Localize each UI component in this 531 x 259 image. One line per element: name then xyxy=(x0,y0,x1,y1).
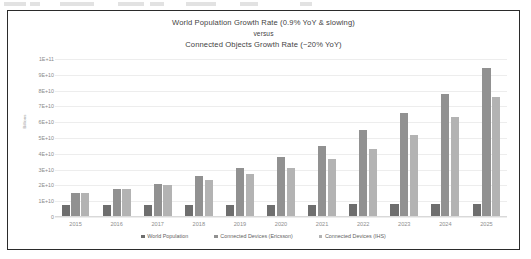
bar-group xyxy=(267,59,295,217)
chart-container: World Population Growth Rate (0.9% YoY &… xyxy=(7,10,520,250)
y-axis-tick-label: 7E+10 xyxy=(16,103,54,109)
x-axis-tick-label: 2022 xyxy=(343,220,384,228)
legend-label: Connected Devices (IHS) xyxy=(325,233,386,240)
bar[interactable] xyxy=(482,68,490,217)
bar[interactable] xyxy=(154,184,162,217)
y-axis-tick-labels: 1E+119E+108E+107E+106E+105E+104E+103E+10… xyxy=(10,59,54,217)
chart-title-line-1: World Population Growth Rate (0.9% YoY &… xyxy=(8,17,519,28)
y-axis-tick-label: 3E+10 xyxy=(16,167,54,173)
legend-swatch-icon xyxy=(141,235,145,239)
bar[interactable] xyxy=(246,174,254,217)
bar[interactable] xyxy=(277,157,285,217)
bar-group xyxy=(390,59,418,217)
x-axis-tick-label: 2018 xyxy=(178,220,219,228)
bar-group xyxy=(144,59,172,217)
bar-group xyxy=(349,59,377,217)
y-axis-tick-label: 4E+10 xyxy=(16,151,54,157)
y-axis-tick-label: 9E+10 xyxy=(16,72,54,78)
legend-label: Connected Devices (Ericsson) xyxy=(220,233,293,240)
legend-item[interactable]: Connected Devices (IHS) xyxy=(319,233,386,240)
legend-label: World Population xyxy=(147,233,188,240)
y-axis-tick-label: 6E+10 xyxy=(16,119,54,125)
bar-group xyxy=(62,59,90,217)
bar[interactable] xyxy=(205,180,213,217)
x-axis-tick-label: 2021 xyxy=(302,220,343,228)
y-axis-tick-label: 0 xyxy=(16,214,54,220)
x-axis-tick-label: 2025 xyxy=(466,220,507,228)
gridline xyxy=(55,217,507,218)
bar[interactable] xyxy=(328,159,336,217)
bar[interactable] xyxy=(369,149,377,217)
x-axis-tick-label: 2015 xyxy=(55,220,96,228)
bar[interactable] xyxy=(359,130,367,217)
bar[interactable] xyxy=(81,193,89,217)
bar-group xyxy=(431,59,459,217)
chart-title-line-2: versus xyxy=(8,28,519,39)
y-axis-tick-label: 2E+10 xyxy=(16,182,54,188)
chart-legend: World PopulationConnected Devices (Erics… xyxy=(8,233,519,240)
bar-group xyxy=(226,59,254,217)
bar[interactable] xyxy=(410,135,418,217)
x-axis-line xyxy=(55,216,507,217)
bar[interactable] xyxy=(195,176,203,217)
plot-area xyxy=(55,59,507,217)
bar[interactable] xyxy=(400,113,408,217)
y-axis-tick-label: 5E+10 xyxy=(16,135,54,141)
x-axis-tick-label: 2019 xyxy=(219,220,260,228)
y-axis-tick-label: 1E+11 xyxy=(16,56,54,62)
x-axis-tick-label: 2024 xyxy=(425,220,466,228)
chart-title: World Population Growth Rate (0.9% YoY &… xyxy=(8,17,519,50)
bar[interactable] xyxy=(163,185,171,217)
bar[interactable] xyxy=(318,146,326,217)
x-axis-tick-label: 2020 xyxy=(260,220,301,228)
bar-group xyxy=(308,59,336,217)
legend-swatch-icon xyxy=(214,235,218,239)
y-axis-tick-label: 1E+10 xyxy=(16,198,54,204)
bar-group xyxy=(103,59,131,217)
bar-group xyxy=(473,59,501,217)
bar[interactable] xyxy=(492,97,500,217)
x-axis-tick-labels: 2015201620172018201920202021202220232024… xyxy=(55,220,507,232)
bar[interactable] xyxy=(122,189,130,217)
bar-group xyxy=(185,59,213,217)
bar[interactable] xyxy=(71,193,79,217)
legend-swatch-icon xyxy=(319,235,323,239)
bar[interactable] xyxy=(441,94,449,217)
x-axis-tick-label: 2016 xyxy=(96,220,137,228)
legend-item[interactable]: World Population xyxy=(141,233,188,240)
x-axis-tick-label: 2023 xyxy=(384,220,425,228)
chart-title-line-3: Connected Objects Growth Rate (~20% YoY) xyxy=(8,39,519,50)
scan-artifact-strip xyxy=(0,0,531,10)
legend-item[interactable]: Connected Devices (Ericsson) xyxy=(214,233,293,240)
bar[interactable] xyxy=(113,189,121,217)
bar[interactable] xyxy=(236,168,244,217)
y-axis-tick-label: 8E+10 xyxy=(16,88,54,94)
bars-layer xyxy=(55,59,507,217)
bar[interactable] xyxy=(451,117,459,217)
bar[interactable] xyxy=(287,168,295,217)
x-axis-tick-label: 2017 xyxy=(137,220,178,228)
